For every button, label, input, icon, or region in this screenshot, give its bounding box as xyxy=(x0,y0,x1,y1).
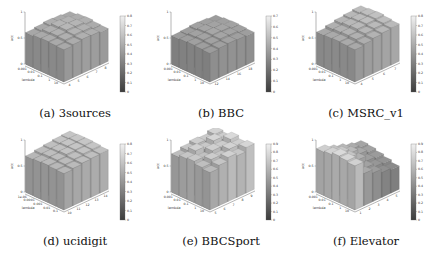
y-tick-label: 10 xyxy=(200,81,204,85)
colorbar-tick-label: 0.5 xyxy=(418,176,423,180)
y-axis-label: lambda xyxy=(168,78,181,82)
x-tick-label: 9 xyxy=(250,194,252,198)
colorbar-tick-label: 0.7 xyxy=(418,159,423,163)
y-tick-label: 0.01 xyxy=(43,206,50,210)
colorbar-tick-label: 0.7 xyxy=(127,24,132,28)
x-tick-label: 4 xyxy=(361,82,363,86)
y-axis-label: lambda xyxy=(313,206,326,210)
colorbar xyxy=(266,16,271,92)
z-tick-label: 0.5 xyxy=(163,164,168,168)
x-tick-label: 4 xyxy=(386,198,388,202)
panel-caption: (a) 3sources xyxy=(2,106,148,120)
x-tick-label: 5 xyxy=(77,79,79,83)
y-tick-label: 0.1 xyxy=(183,74,188,78)
colorbar-tick-label: 0.1 xyxy=(127,81,132,85)
colorbar-tick-label: 0.5 xyxy=(127,171,132,175)
x-tick-label: 7 xyxy=(95,70,97,74)
colorbar-tick-label: 0.2 xyxy=(418,201,423,205)
colorbar xyxy=(411,144,416,220)
z-tick-label: 0 xyxy=(20,62,22,66)
x-tick-label: 14 xyxy=(103,194,107,198)
z-axis-label: acc xyxy=(10,163,14,169)
colorbar-tick-label: 0.1 xyxy=(418,210,423,214)
z-tick-label: 0 xyxy=(311,62,313,66)
colorbar-tick-label: 0.9 xyxy=(418,142,423,146)
x-tick-label: 7 xyxy=(394,67,396,71)
colorbar-tick-label: 0.6 xyxy=(418,167,423,171)
colorbar-tick-label: 0.6 xyxy=(273,25,278,29)
x-tick-label: 10 xyxy=(67,211,71,215)
colorbar-tick-label: 0.4 xyxy=(273,184,278,188)
colorbar-tick-label: 0.7 xyxy=(127,152,132,156)
colorbar-tick-label: 0.2 xyxy=(127,71,132,75)
y-tick-label: 10 xyxy=(345,81,349,85)
colorbar-tick-label: 0.5 xyxy=(273,176,278,180)
x-tick-label: 6 xyxy=(86,75,88,79)
x-tick-label: 13 xyxy=(94,198,98,202)
z-tick-label: 1 xyxy=(311,10,313,14)
colorbar-tick-label: 0.1 xyxy=(273,210,278,214)
y-tick-label: 0.001 xyxy=(18,67,27,71)
x-tick-label: 16 xyxy=(237,72,241,76)
colorbar-tick-label: 0.3 xyxy=(418,62,423,66)
y-tick-label: 0.01 xyxy=(174,198,181,202)
x-tick-label: 4 xyxy=(68,83,70,87)
bar3d-plot: 00.51acc0.0010.010.1110lambda1214161800.… xyxy=(148,0,294,105)
colorbar-tick-label: 0.4 xyxy=(418,184,423,188)
colorbar-tick-label: 0.6 xyxy=(127,33,132,37)
y-axis-label: lambda xyxy=(22,78,35,82)
colorbar xyxy=(266,144,271,220)
y-tick-label: 10 xyxy=(200,209,204,213)
y-tick-label: 0.001 xyxy=(164,67,173,71)
colorbar-tick-label: 0.5 xyxy=(418,43,423,47)
colorbar-tick-label: 0.2 xyxy=(273,68,278,72)
panel-elevator: 00.51acc0.0010.010.1110lambda1234500.10.… xyxy=(293,128,439,255)
y-tick-label: 0.001 xyxy=(33,202,42,206)
colorbar xyxy=(120,144,125,220)
colorbar-tick-label: 0.2 xyxy=(127,199,132,203)
colorbar-tick-label: 0.2 xyxy=(273,201,278,205)
colorbar xyxy=(411,16,416,92)
z-axis-label: acc xyxy=(156,35,160,41)
z-tick-label: 1 xyxy=(166,10,168,14)
colorbar-tick-label: 0.8 xyxy=(418,150,423,154)
z-axis-label: acc xyxy=(156,163,160,169)
colorbar-tick-label: 0 xyxy=(418,90,420,94)
bar3d-plot: 00.51acc1e-060.00010.0010.010.1lambda101… xyxy=(2,128,148,233)
bar xyxy=(57,43,72,82)
panel-caption: (f) Elevator xyxy=(293,234,439,248)
y-tick-label: 0.1 xyxy=(53,209,58,213)
y-tick-label: 0.1 xyxy=(328,74,333,78)
z-axis-label: acc xyxy=(301,163,305,169)
x-tick-label: 12 xyxy=(215,82,219,86)
bar3d-plot: 00.51acc0.0010.010.1110lambda5678900.10.… xyxy=(148,128,294,233)
colorbar-tick-label: 0 xyxy=(127,218,129,222)
colorbar-tick-label: 0.6 xyxy=(127,161,132,165)
bar3d-plot: 00.51acc0.0010.010.1110lambda456700.10.2… xyxy=(293,0,439,105)
colorbar-tick-label: 0.4 xyxy=(127,52,132,56)
panel-bbcsport: 00.51acc0.0010.010.1110lambda5678900.10.… xyxy=(148,128,294,255)
colorbar-tick-label: 0.4 xyxy=(127,180,132,184)
z-tick-label: 0.5 xyxy=(163,36,168,40)
z-tick-label: 1 xyxy=(20,138,22,142)
colorbar-tick-label: 0.5 xyxy=(273,36,278,40)
panel-3sources: 00.51acc0.0010.010.1110lambda4567800.10.… xyxy=(2,0,148,127)
colorbar-tick-label: 0.3 xyxy=(127,62,132,66)
y-axis-label: lambda xyxy=(168,206,181,210)
z-tick-label: 0 xyxy=(166,190,168,194)
colorbar-tick-label: 0.3 xyxy=(418,193,423,197)
x-tick-label: 12 xyxy=(85,203,89,207)
z-tick-label: 0.5 xyxy=(17,36,22,40)
z-tick-label: 1 xyxy=(166,138,168,142)
colorbar-tick-label: 0.3 xyxy=(127,190,132,194)
bar xyxy=(203,46,218,82)
z-tick-label: 0 xyxy=(311,190,313,194)
colorbar-tick-label: 0.8 xyxy=(418,14,423,18)
z-tick-label: 0 xyxy=(20,190,22,194)
x-tick-label: 18 xyxy=(248,67,252,71)
y-tick-label: 1 xyxy=(194,78,196,82)
panel-caption: (c) MSRC_v1 xyxy=(293,106,439,120)
bar3d-plot: 00.51acc0.0010.010.1110lambda4567800.10.… xyxy=(2,0,148,105)
colorbar-tick-label: 0.9 xyxy=(273,142,278,146)
panel-caption: (e) BBCSport xyxy=(148,234,294,248)
